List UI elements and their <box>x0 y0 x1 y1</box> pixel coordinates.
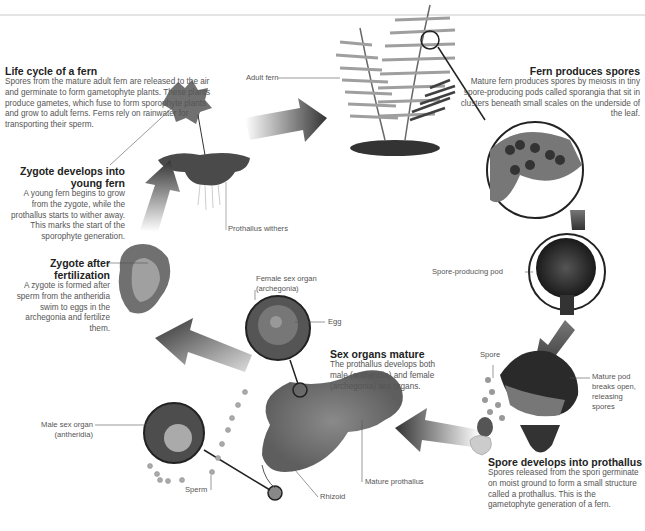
label-spore: Spore <box>480 350 500 360</box>
label-sperm: Sperm <box>185 485 207 495</box>
cycle-arrow-4 <box>395 408 480 452</box>
label-female-organ: Female sex organ (archegonia) <box>256 274 336 294</box>
stage-title: Spore develops into prothallus <box>488 456 643 468</box>
adult-fern-graphic <box>336 5 455 140</box>
stage-text: A young fern begins to grow from the zyg… <box>5 189 125 243</box>
stage-title: Sex organs mature <box>330 348 450 360</box>
diagram-title: Life cycle of a fern <box>5 65 215 77</box>
stage-text: Spores released from the spori germinate… <box>488 468 643 511</box>
stage-spore-develops: Spore develops into prothallus Spores re… <box>488 456 643 511</box>
label-egg: Egg <box>328 317 342 327</box>
label-mature-pod: Mature pod breaks open, releasing spores <box>592 372 645 412</box>
stage-fern-produces-spores: Fern produces spores Mature fern produce… <box>460 65 640 120</box>
stage-zygote-develops: Zygote develops into young fern A young … <box>5 165 125 243</box>
stage-title: Zygote after fertilization <box>5 257 110 281</box>
stage-sex-organs-mature: Sex organs mature The prothallus develop… <box>330 348 450 392</box>
stage-zygote-after-fertilization: Zygote after fertilization A zygote is f… <box>5 257 110 335</box>
label-spore-pod: Spore-producing pod <box>432 267 503 277</box>
stage-text: The prothallus develops both male (anthe… <box>330 360 450 392</box>
label-rhizoid: Rhizoid <box>320 492 345 502</box>
label-male-organ: Male sex organ (antheridia) <box>35 420 93 440</box>
label-adult-fern: Adult fern <box>246 73 279 83</box>
stage-title: Fern produces spores <box>460 65 640 77</box>
intro-block: Life cycle of a fern Spores from the mat… <box>5 65 215 131</box>
intro-text: Spores from the mature adult fern are re… <box>5 77 215 131</box>
stage-text: A zygote is formed after sperm from the … <box>5 281 110 335</box>
label-mature-prothallus: Mature prothallus <box>365 477 424 487</box>
cycle-arrow-1 <box>245 98 327 142</box>
cycle-arrow-3 <box>155 318 252 372</box>
label-prothallus-withers: Prothallus withers <box>228 224 288 234</box>
stage-text: Mature fern produces spores by meiosis i… <box>460 77 640 120</box>
stage-title: Zygote develops into young fern <box>5 165 125 189</box>
